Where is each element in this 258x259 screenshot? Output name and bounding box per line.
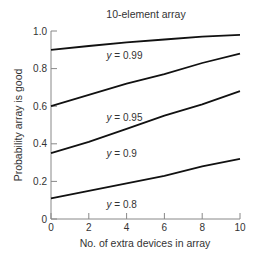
plot-area: 00.20.40.60.81.0 0246810 y = 0.99y = 0.9… (33, 26, 246, 234)
y-axis-ticks: 00.20.40.60.81.0 (33, 26, 57, 225)
y-tick-label: 0.2 (33, 176, 47, 187)
series-label: y = 0.99 (106, 50, 143, 61)
x-tick-label: 2 (86, 222, 92, 233)
series-label: y = 0.95 (106, 112, 143, 123)
series-lines (51, 35, 240, 199)
chart-title: 10-element array (106, 8, 186, 20)
y-tick-label: 1.0 (33, 26, 47, 37)
y-tick-label: 0.4 (33, 138, 47, 149)
chart: 10-element array 00.20.40.60.81.0 024681… (0, 0, 258, 259)
x-tick-label: 10 (234, 222, 246, 233)
series-line (51, 54, 240, 107)
series-line (51, 91, 240, 153)
x-axis-ticks: 0246810 (48, 213, 246, 233)
x-tick-label: 8 (199, 222, 205, 233)
series-label: y = 0.9 (106, 148, 138, 159)
x-tick-label: 4 (124, 222, 130, 233)
x-tick-label: 0 (48, 222, 54, 233)
x-tick-label: 6 (162, 222, 168, 233)
y-axis-label: Probability array is good (12, 69, 24, 182)
series-label: y = 0.8 (106, 199, 138, 210)
series-line (51, 35, 240, 50)
y-tick-label: 0 (41, 214, 47, 225)
x-axis-label: No. of extra devices in array (80, 237, 211, 249)
series-line (51, 159, 240, 199)
y-tick-label: 0.6 (33, 101, 47, 112)
y-tick-label: 0.8 (33, 63, 47, 74)
